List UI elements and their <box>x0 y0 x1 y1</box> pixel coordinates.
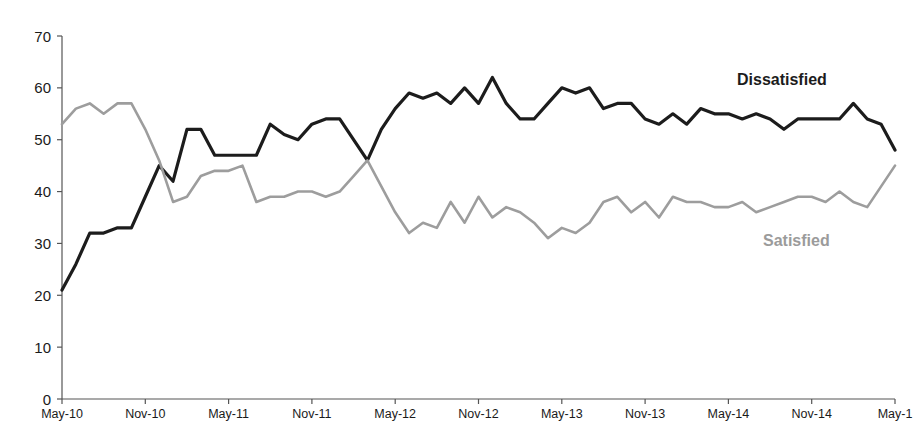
x-axis: May-10Nov-10May-11Nov-11May-12Nov-12May-… <box>41 399 912 421</box>
x-tick-label: Nov-13 <box>625 407 665 421</box>
y-tick-label: 30 <box>34 235 51 252</box>
y-tick-label: 60 <box>34 79 51 96</box>
y-tick-label: 40 <box>34 183 51 200</box>
series-lines <box>62 77 895 290</box>
x-tick-label: May-1 <box>878 407 913 421</box>
chart-canvas: 010203040506070 May-10Nov-10May-11Nov-11… <box>0 0 923 448</box>
x-tick-label: May-14 <box>708 407 750 421</box>
y-tick-label: 10 <box>34 339 51 356</box>
x-tick-label: May-13 <box>541 407 583 421</box>
x-tick-label: May-12 <box>374 407 416 421</box>
line-chart: 010203040506070 May-10Nov-10May-11Nov-11… <box>0 0 923 448</box>
x-tick-label: Nov-11 <box>292 407 331 421</box>
x-tick-label: Nov-12 <box>458 407 498 421</box>
y-tick-label: 50 <box>34 131 51 148</box>
series-line-dissatisfied <box>62 77 895 290</box>
x-tick-label: May-10 <box>41 407 83 421</box>
x-tick-label: Nov-10 <box>125 407 165 421</box>
y-tick-label: 20 <box>34 287 51 304</box>
series-line-satisfied <box>62 103 895 238</box>
x-tick-label: Nov-14 <box>792 407 832 421</box>
x-tick-label: May-11 <box>208 407 249 421</box>
y-tick-label: 0 <box>43 391 51 408</box>
y-axis: 010203040506070 <box>34 28 62 408</box>
series-label-satisfied: Satisfied <box>763 232 830 249</box>
y-tick-label: 70 <box>34 28 51 45</box>
series-label-dissatisfied: Dissatisfied <box>737 71 827 88</box>
